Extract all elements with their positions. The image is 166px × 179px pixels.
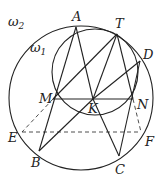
- point-label-C: C: [115, 162, 125, 177]
- segment-TN: [117, 34, 133, 99]
- point-label-M: M: [38, 91, 53, 106]
- point-label-D: D: [142, 47, 154, 62]
- point-label-K: K: [87, 101, 99, 116]
- point-label-B: B: [30, 155, 41, 170]
- label-omega2: ω2: [8, 14, 25, 31]
- point-label-A: A: [71, 9, 81, 24]
- solid-segments: [39, 27, 140, 156]
- point-label-T: T: [115, 16, 125, 31]
- segment-AK: [76, 27, 93, 99]
- point-label-E: E: [7, 130, 18, 145]
- label-omega1: ω1: [30, 40, 46, 57]
- point-label-N: N: [136, 97, 149, 112]
- point-label-F: F: [144, 134, 155, 149]
- geometry-figure: ATDMKNEFBC ω2 ω1: [0, 0, 166, 179]
- diagram-canvas: ATDMKNEFBC ω2 ω1: [0, 0, 166, 179]
